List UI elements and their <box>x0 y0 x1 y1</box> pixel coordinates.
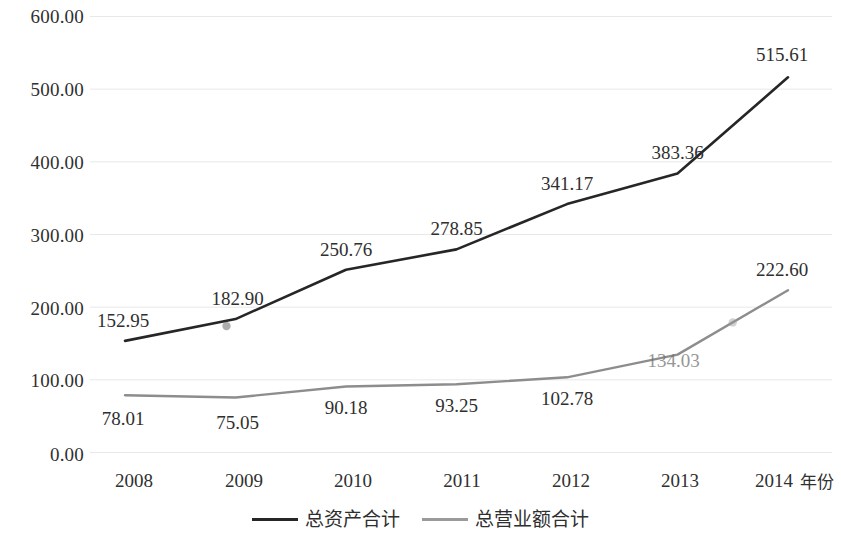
data-label: 383.36 <box>651 143 703 162</box>
data-label: 515.61 <box>756 45 808 64</box>
line-chart: 600.00 500.00 400.00 300.00 200.00 100.0… <box>0 0 841 533</box>
data-label: 90.18 <box>325 398 368 417</box>
data-label: 75.05 <box>216 413 259 432</box>
data-label: 134.03 <box>647 351 699 370</box>
x-tick-label: 2008 <box>115 470 153 492</box>
x-axis-title: 年份 <box>800 471 834 493</box>
legend-line-swatch-series-1 <box>422 518 468 521</box>
legend: 总资产合计 总营业额合计 <box>0 506 841 533</box>
data-label: 78.01 <box>102 409 145 428</box>
legend-line-swatch-series-0 <box>252 518 298 521</box>
data-label: 341.17 <box>541 174 593 193</box>
x-axis: 2008 2009 2010 2011 2012 2013 2014 年份 <box>0 470 841 506</box>
data-label: 182.90 <box>211 289 263 308</box>
plot-area <box>0 0 841 533</box>
data-point-marker <box>222 322 230 330</box>
x-tick-label: 2009 <box>225 470 263 492</box>
x-tick-label: 2013 <box>661 470 699 492</box>
legend-item-total-revenue[interactable]: 总营业额合计 <box>422 509 589 530</box>
data-label: 102.78 <box>541 389 593 408</box>
x-tick-label: 2014 <box>755 470 793 492</box>
data-label: 250.76 <box>320 240 372 259</box>
data-label: 222.60 <box>756 260 808 279</box>
data-label: 152.95 <box>97 311 149 330</box>
legend-item-total-assets[interactable]: 总资产合计 <box>252 509 400 530</box>
x-tick-label: 2012 <box>552 470 590 492</box>
data-label: 93.25 <box>435 396 478 415</box>
x-tick-label: 2010 <box>334 470 372 492</box>
legend-label-series-0: 总资产合计 <box>305 509 400 530</box>
x-tick-label: 2011 <box>443 470 480 492</box>
data-point-marker <box>729 318 737 326</box>
data-label: 278.85 <box>430 219 482 238</box>
series-markers <box>222 318 737 330</box>
legend-label-series-1: 总营业额合计 <box>475 509 589 530</box>
